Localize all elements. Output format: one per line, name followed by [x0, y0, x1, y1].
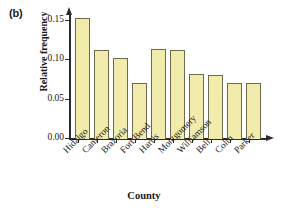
y-tick-label-0.00: 0.00 — [36, 133, 64, 142]
bar-bell — [208, 75, 223, 139]
x-axis-arrow-icon — [266, 135, 274, 141]
bars-layer — [71, 13, 266, 139]
bar-colin — [227, 83, 242, 139]
x-axis-title: County — [0, 190, 288, 201]
figure-panel-b: (b) Relative frequency 0.15 0.10 0.05 0.… — [0, 0, 288, 208]
bar-harris — [151, 49, 166, 139]
bar-chart: Relative frequency 0.15 0.10 0.05 0.00 — [0, 0, 288, 208]
y-tick-label-0.10: 0.10 — [36, 54, 64, 63]
y-tick-label-0.05: 0.05 — [36, 94, 64, 103]
bar-hidalgo — [75, 18, 90, 139]
y-tick-label-0.15: 0.15 — [36, 15, 64, 24]
